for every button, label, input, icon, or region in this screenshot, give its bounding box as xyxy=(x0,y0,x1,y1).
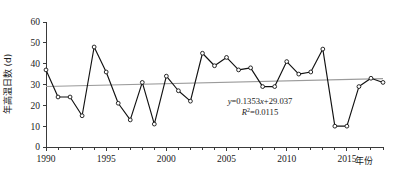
y-tick-label: 50 xyxy=(31,38,41,48)
data-point xyxy=(92,45,96,49)
y-ticks: 0102030405060 xyxy=(31,17,47,152)
eq-rest: =0.1353 xyxy=(232,96,260,106)
eq-tail: +29.037 xyxy=(264,96,293,106)
y-axis-title: 年高温日数 (d) xyxy=(2,54,13,115)
data-point xyxy=(297,72,301,76)
x-tick-label: 2005 xyxy=(217,154,236,164)
chart-container: 0102030405060 199019952000200520102015 年… xyxy=(0,0,396,186)
x-tick-label: 1990 xyxy=(37,154,56,164)
trend-line xyxy=(46,79,383,87)
x-tick-labels: 199019952000200520102015 xyxy=(37,154,357,164)
data-series-line xyxy=(46,47,383,126)
y-axis-group: 0102030405060 xyxy=(31,17,47,152)
data-point xyxy=(321,47,325,51)
y-tick-label: 10 xyxy=(31,122,41,132)
data-point xyxy=(189,99,193,103)
data-point xyxy=(357,85,361,89)
plot-area xyxy=(44,45,385,128)
x-tick-label: 1995 xyxy=(97,154,116,164)
data-point xyxy=(333,124,337,128)
data-point xyxy=(345,124,349,128)
data-point xyxy=(237,68,241,72)
data-point xyxy=(140,81,144,85)
y-tick-label: 40 xyxy=(31,59,41,69)
x-tick-label: 2000 xyxy=(157,154,176,164)
data-point xyxy=(164,74,168,78)
data-point xyxy=(176,89,180,93)
y-tick-label: 30 xyxy=(31,80,41,90)
y-tick-label: 20 xyxy=(31,101,41,111)
x-axis-group: 199019952000200520102015 xyxy=(37,147,384,164)
data-point xyxy=(249,66,253,70)
y-tick-label: 60 xyxy=(31,17,41,27)
data-point xyxy=(285,60,289,64)
r-squared-label: R2=0.0115 xyxy=(241,107,278,117)
r-value: =0.0115 xyxy=(250,107,278,117)
data-point xyxy=(261,85,265,89)
x-tick-label: 2010 xyxy=(277,154,296,164)
data-point xyxy=(225,56,229,60)
data-point xyxy=(213,64,217,68)
data-point xyxy=(56,95,60,99)
data-point xyxy=(68,95,72,99)
data-point xyxy=(128,118,132,122)
data-point xyxy=(80,114,84,118)
data-point xyxy=(273,85,277,89)
x-tick-label: 2015 xyxy=(337,154,356,164)
data-point xyxy=(309,70,313,74)
data-point xyxy=(104,70,108,74)
x-ticks xyxy=(46,147,383,151)
x-axis-title: 年份 xyxy=(355,155,373,166)
data-point xyxy=(116,101,120,105)
data-point xyxy=(44,68,48,72)
data-point xyxy=(369,76,373,80)
data-point xyxy=(201,51,205,55)
y-tick-label: 0 xyxy=(35,142,40,152)
data-point xyxy=(152,122,156,126)
regression-equation: y=0.1353x+29.037 xyxy=(227,96,293,106)
data-point xyxy=(381,81,385,85)
line-chart: 0102030405060 199019952000200520102015 年… xyxy=(0,0,396,186)
